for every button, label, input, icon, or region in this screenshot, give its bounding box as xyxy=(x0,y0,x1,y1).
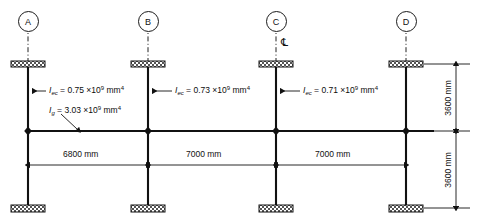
column-label-1-unit: mm xyxy=(106,85,120,95)
grid-bubble-d-label: D xyxy=(403,17,410,27)
column-label-1-value: = 0.75 ×10 xyxy=(60,85,101,95)
grid-bubble-a-label: A xyxy=(25,17,31,27)
storey-height-lower: 3600 mm xyxy=(443,140,453,200)
grid-bubble-c-label: C xyxy=(273,17,280,27)
grid-bubble-d[interactable]: D xyxy=(396,11,417,32)
span-dimension-bc: 7000 mm xyxy=(184,149,223,159)
column-label-3-value: = 0.71 ×10 xyxy=(314,85,355,95)
grid-centerlines xyxy=(28,33,406,62)
column-label-1: Iec = 0.75 ×109 mm4 xyxy=(49,85,124,96)
grid-bubble-c[interactable]: C xyxy=(266,11,287,32)
column-label-2-exp: 9 xyxy=(227,85,230,91)
column-label-2: Iec = 0.73 ×109 mm4 xyxy=(175,85,250,96)
bottom-fixed-supports xyxy=(11,205,423,212)
column-label-2-unit: mm xyxy=(232,85,246,95)
grid-bubble-b[interactable]: B xyxy=(138,11,159,32)
grid-bubble-b-label: B xyxy=(145,17,151,27)
column-label-3: Iec = 0.71 ×109 mm4 xyxy=(303,85,378,96)
beam-label: Ig = 3.03 ×109 mm4 xyxy=(49,105,121,116)
beam-label-leader xyxy=(61,114,77,129)
grid-bubble-a[interactable]: A xyxy=(18,11,39,32)
beam-label-exp: 9 xyxy=(98,105,101,111)
column-label-1-unit-exp: 4 xyxy=(121,85,124,91)
column-label-2-value: = 0.73 ×10 xyxy=(186,85,227,95)
span-dimension-ab: 6800 mm xyxy=(61,149,100,159)
column-label-3-exp: 9 xyxy=(355,85,358,91)
column-label-2-sub: ec xyxy=(177,90,183,96)
span-dimension-cd: 7000 mm xyxy=(313,149,352,159)
column-label-3-unit-exp: 4 xyxy=(375,85,378,91)
top-fixed-supports xyxy=(11,61,423,67)
frame-elevation-diagram: A B C D ℄ Iec = 0.75 ×109 mm4 Iec = 0.73… xyxy=(0,0,477,223)
beam-label-unit: mm xyxy=(103,105,117,115)
centerline-symbol-icon: ℄ xyxy=(281,36,288,49)
column-label-1-sub: ec xyxy=(51,90,57,96)
column-label-3-unit: mm xyxy=(360,85,374,95)
beam-label-sub: g xyxy=(51,110,54,116)
column-label-1-exp: 9 xyxy=(101,85,104,91)
column-label-3-sub: ec xyxy=(305,90,311,96)
beam-label-unit-exp: 4 xyxy=(118,105,121,111)
beam-label-value: = 3.03 ×10 xyxy=(57,105,98,115)
storey-height-upper: 3600 mm xyxy=(443,68,453,128)
column-label-2-unit-exp: 4 xyxy=(247,85,250,91)
